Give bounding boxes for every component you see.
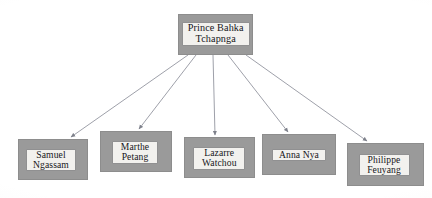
root-node[interactable]: Prince Bahka Tchapnga [178,14,253,55]
connector-root-to-lazarre-watchou [213,55,215,135]
connector-root-to-marthe-petang [139,55,196,129]
child-node-samuel-ngassam-label: Samuel Ngassam [27,150,75,171]
child-node-lazarre-watchou-label: Lazarre Watchou [194,148,244,169]
child-node-samuel-ngassam[interactable]: Samuel Ngassam [18,139,88,180]
connector-root-to-philippe-feuyang [246,55,367,141]
child-node-philippe-feuyang[interactable]: Philippe Feuyang [347,143,424,186]
connector-root-to-samuel-ngassam [71,55,188,137]
hierarchy-diagram: Prince Bahka TchapngaSamuel NgassamMarth… [0,0,432,198]
child-node-anna-nya[interactable]: Anna Nya [262,134,336,175]
child-node-anna-nya-label: Anna Nya [273,150,325,161]
root-node-label: Prince Bahka Tchapnga [183,23,249,45]
child-node-marthe-petang[interactable]: Marthe Petang [100,131,172,172]
child-node-marthe-petang-label: Marthe Petang [113,142,157,163]
child-node-lazarre-watchou[interactable]: Lazarre Watchou [184,137,255,178]
child-node-philippe-feuyang-label: Philippe Feuyang [360,155,409,176]
connector-root-to-anna-nya [228,55,288,132]
